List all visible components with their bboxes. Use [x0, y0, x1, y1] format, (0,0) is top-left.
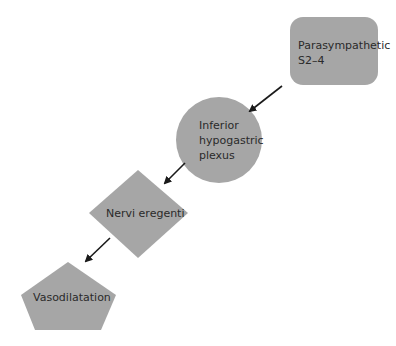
label-line: hypogastric: [199, 133, 264, 148]
node-nervi-label: Nervi eregenti: [106, 206, 185, 221]
label-line: S2–4: [298, 53, 390, 68]
node-parasympathetic-label: Parasympathetic S2–4: [298, 38, 390, 68]
arrow-1: [250, 86, 282, 111]
label-line: Inferior: [199, 118, 264, 133]
label-line: Nervi eregenti: [106, 206, 185, 221]
label-line: plexus: [199, 148, 264, 163]
arrow-2: [165, 163, 185, 183]
label-line: Parasympathetic: [298, 38, 390, 53]
node-plexus-label: Inferior hypogastric plexus: [199, 118, 264, 163]
node-vasodilatation-label: Vasodilatation: [33, 290, 111, 305]
arrow-3: [86, 238, 110, 261]
label-line: Vasodilatation: [33, 290, 111, 305]
